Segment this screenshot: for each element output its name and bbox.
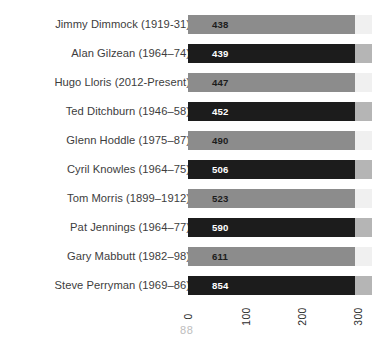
x-axis-tick-label: 200 xyxy=(297,307,308,325)
bar-tail-segment xyxy=(355,73,372,92)
bar-row: Jimmy Dimmock (1919-31) 438 xyxy=(0,15,386,44)
category-label: Tom Morris (1899–1912) xyxy=(67,189,190,208)
bar-tail-segment xyxy=(355,131,372,150)
category-label: Pat Jennings (1964–77) xyxy=(70,218,190,237)
x-axis-tick-label: 0 xyxy=(183,313,194,319)
x-axis-tick-label: 300 xyxy=(353,307,364,325)
bar-tail-segment xyxy=(355,276,372,295)
category-label: Gary Mabbutt (1982–98) xyxy=(67,247,190,266)
bar-chart-figure: Jimmy Dimmock (1919-31) 438 Alan Gilzean… xyxy=(0,0,386,353)
bar-track: 447 xyxy=(188,73,372,92)
bar-value-label: 506 xyxy=(212,160,229,179)
bar-value-label: 590 xyxy=(212,218,229,237)
x-axis-tick: 0 xyxy=(181,306,195,324)
bar-value-label: 439 xyxy=(212,44,229,63)
bar-track: 611 xyxy=(188,247,372,266)
bar-track: 590 xyxy=(188,218,372,237)
bar-row: Tom Morris (1899–1912) 523 xyxy=(0,189,386,218)
bar-row: Steve Perryman (1969–86) 854 xyxy=(0,276,386,305)
category-label: Cyril Knowles (1964–75) xyxy=(67,160,190,179)
bar-track: 490 xyxy=(188,131,372,150)
bar-row: Ted Ditchburn (1946–58) 452 xyxy=(0,102,386,131)
bar-row: Glenn Hoddle (1975–87) 490 xyxy=(0,131,386,160)
x-axis-tick: 300 xyxy=(349,306,363,324)
bar-rows: Jimmy Dimmock (1919-31) 438 Alan Gilzean… xyxy=(0,15,386,305)
bar-tail-segment xyxy=(355,102,372,121)
bar-value-label: 490 xyxy=(212,131,229,150)
bar-row: Gary Mabbutt (1982–98) 611 xyxy=(0,247,386,276)
bar-tail-segment xyxy=(355,160,372,179)
bar-value-label: 611 xyxy=(212,247,228,266)
bar-value-label: 452 xyxy=(212,102,229,121)
bar-row: Cyril Knowles (1964–75) 506 xyxy=(0,160,386,189)
category-label: Jimmy Dimmock (1919-31) xyxy=(55,15,190,34)
category-label: Steve Perryman (1969–86) xyxy=(54,276,190,295)
bar-row: Hugo Lloris (2012-Present) 447 xyxy=(0,73,386,102)
bar-value-label: 447 xyxy=(212,73,229,92)
bar-tail-segment xyxy=(355,15,372,34)
bar-value-label: 854 xyxy=(212,276,229,295)
category-label: Ted Ditchburn (1946–58) xyxy=(66,102,190,121)
bar-tail-segment xyxy=(355,247,372,266)
page-number: 88 xyxy=(180,324,193,336)
x-axis-tick: 200 xyxy=(293,306,307,324)
bar-tail-segment xyxy=(355,218,372,237)
category-label: Alan Gilzean (1964–74) xyxy=(71,44,190,63)
bar-track: 523 xyxy=(188,189,372,208)
category-label: Hugo Lloris (2012-Present) xyxy=(54,73,190,92)
bar-row: Pat Jennings (1964–77) 590 xyxy=(0,218,386,247)
bar-value-label: 438 xyxy=(212,15,229,34)
bar-track: 452 xyxy=(188,102,372,121)
bar-track: 506 xyxy=(188,160,372,179)
x-axis-tick: 100 xyxy=(237,306,251,324)
bar-value-label: 523 xyxy=(212,189,229,208)
category-label: Glenn Hoddle (1975–87) xyxy=(66,131,190,150)
bar-track: 438 xyxy=(188,15,372,34)
bar-track: 854 xyxy=(188,276,372,295)
bar-tail-segment xyxy=(355,44,372,63)
x-axis-tick-label: 100 xyxy=(241,307,252,325)
bar-row: Alan Gilzean (1964–74) 439 xyxy=(0,44,386,73)
bar-tail-segment xyxy=(355,189,372,208)
bar-track: 439 xyxy=(188,44,372,63)
